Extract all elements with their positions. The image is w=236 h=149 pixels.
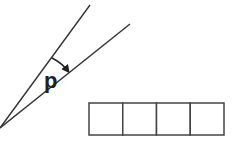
- angle-label: p: [44, 68, 57, 93]
- answer-box-4[interactable]: [190, 103, 224, 135]
- angle-diagram: p: [0, 0, 236, 149]
- answer-box-2[interactable]: [123, 103, 157, 135]
- answer-box-1[interactable]: [89, 103, 123, 135]
- answer-boxes: [89, 103, 224, 135]
- answer-box-3[interactable]: [157, 103, 191, 135]
